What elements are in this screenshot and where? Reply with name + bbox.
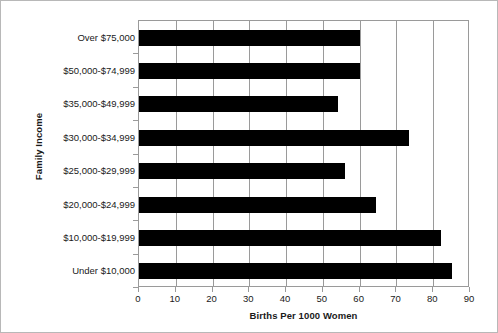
y-axis-tick-labels: Under $10,000$10,000-$19,999$20,000-$24,… bbox=[27, 20, 135, 287]
gridline bbox=[176, 21, 177, 286]
x-axis-tick-label: 30 bbox=[243, 293, 254, 304]
gridline bbox=[286, 21, 287, 286]
x-axis-tick-mark bbox=[322, 287, 323, 292]
x-axis-tick-mark bbox=[248, 287, 249, 292]
gridline bbox=[360, 21, 361, 286]
y-axis-tick-label: $30,000-$34,999 bbox=[27, 131, 135, 142]
x-axis-tick-mark bbox=[359, 287, 360, 292]
y-axis-tick-mark bbox=[133, 87, 138, 88]
x-axis-tick-mark bbox=[469, 287, 470, 292]
y-axis-tick-label: $35,000-$49,999 bbox=[27, 98, 135, 109]
bar bbox=[139, 96, 338, 112]
bar bbox=[139, 230, 441, 246]
y-axis-tick-label: Over $75,000 bbox=[27, 31, 135, 42]
gridline bbox=[249, 21, 250, 286]
x-axis-tick-mark bbox=[285, 287, 286, 292]
x-axis-tick-label: 90 bbox=[464, 293, 475, 304]
bar bbox=[139, 30, 360, 46]
x-axis-tick-label: 60 bbox=[353, 293, 364, 304]
x-axis-tick-mark bbox=[432, 287, 433, 292]
y-axis-tick-mark bbox=[133, 187, 138, 188]
x-axis-tick-label: 0 bbox=[135, 293, 140, 304]
bar bbox=[139, 163, 345, 179]
x-axis-tick-label: 40 bbox=[280, 293, 291, 304]
gridline bbox=[433, 21, 434, 286]
bar bbox=[139, 197, 376, 213]
gridline bbox=[396, 21, 397, 286]
x-axis-title: Births Per 1000 Women bbox=[138, 310, 469, 321]
y-axis-tick-label: $25,000-$29,999 bbox=[27, 165, 135, 176]
x-axis-tick-label: 80 bbox=[427, 293, 438, 304]
y-axis-tick-label: Under $10,000 bbox=[27, 265, 135, 276]
x-axis-tick-mark bbox=[175, 287, 176, 292]
x-axis-tick-label: 20 bbox=[206, 293, 217, 304]
y-axis-tick-mark bbox=[133, 154, 138, 155]
y-axis-tick-mark bbox=[133, 220, 138, 221]
bar bbox=[139, 263, 452, 279]
x-axis-tick-label: 50 bbox=[317, 293, 328, 304]
x-axis-tick-label: 10 bbox=[169, 293, 180, 304]
bar-chart-figure: Family Income Under $10,000$10,000-$19,9… bbox=[0, 0, 498, 333]
bar bbox=[139, 130, 409, 146]
y-axis-tick-mark bbox=[133, 120, 138, 121]
x-axis-tick-mark bbox=[395, 287, 396, 292]
x-axis-tick-mark bbox=[138, 287, 139, 292]
gridline bbox=[323, 21, 324, 286]
x-axis-tick-mark bbox=[212, 287, 213, 292]
y-axis-tick-label: $50,000-$74,999 bbox=[27, 65, 135, 76]
plot-area bbox=[138, 20, 469, 287]
x-axis-tick-label: 70 bbox=[390, 293, 401, 304]
y-axis-tick-label: $20,000-$24,999 bbox=[27, 198, 135, 209]
y-axis-tick-mark bbox=[133, 53, 138, 54]
gridline bbox=[213, 21, 214, 286]
y-axis-tick-label: $10,000-$19,999 bbox=[27, 231, 135, 242]
y-axis-tick-mark bbox=[133, 254, 138, 255]
bar bbox=[139, 63, 360, 79]
